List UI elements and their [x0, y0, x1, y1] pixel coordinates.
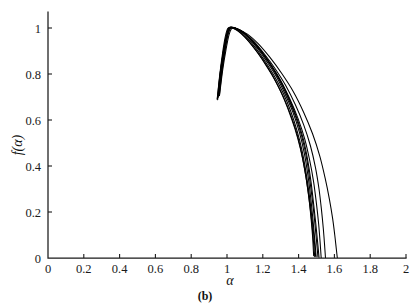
x-tick-label: 0.4 — [112, 262, 128, 276]
y-tick-label: 0.8 — [25, 68, 41, 82]
y-tick-label: 1 — [35, 22, 41, 36]
chart-plot: 00.20.40.60.811.21.41.61.82 00.20.40.60.… — [0, 0, 416, 305]
axes-group — [48, 12, 406, 258]
x-tick-label: 1.6 — [327, 262, 343, 276]
y-tick-label: 0 — [35, 252, 41, 266]
axis-spines — [48, 12, 406, 258]
x-tick-label: 1.4 — [291, 262, 307, 276]
x-tick-label: 1.2 — [255, 262, 271, 276]
figure-container: 00.20.40.60.811.21.41.61.82 00.20.40.60.… — [0, 0, 416, 305]
x-tick-label: 0 — [45, 262, 51, 276]
data-curve — [217, 27, 321, 257]
y-tick-label: 0.2 — [25, 206, 41, 220]
data-curve — [218, 27, 325, 257]
y-axis-tick-labels: 00.20.40.60.81 — [25, 22, 41, 266]
y-axis-title: f(α) — [10, 134, 26, 155]
x-tick-label: 0.2 — [76, 262, 92, 276]
x-tick-label: 0.8 — [183, 262, 199, 276]
data-series-group — [217, 27, 337, 258]
x-tick-label: 2 — [403, 262, 409, 276]
figure-caption: (b) — [198, 289, 213, 303]
data-curve — [219, 28, 337, 258]
y-tick-label: 0.4 — [25, 160, 41, 174]
y-tick-label: 0.6 — [25, 114, 41, 128]
data-curve — [218, 27, 316, 257]
x-tick-label: 1.8 — [362, 262, 378, 276]
ticks-group — [48, 28, 406, 258]
x-axis-title: α — [226, 273, 234, 288]
x-tick-label: 0.6 — [148, 262, 164, 276]
